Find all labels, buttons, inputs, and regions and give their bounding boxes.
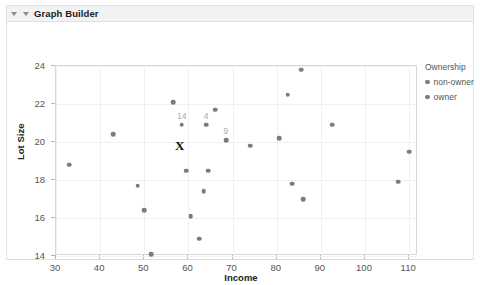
data-point-label: 14 [177, 111, 186, 121]
data-point[interactable] [188, 214, 193, 219]
gridline-horizontal [56, 104, 416, 105]
legend-item[interactable]: owner [425, 92, 480, 102]
x-annotation-marker[interactable]: X [175, 138, 184, 154]
y-tick-label: 20 [5, 136, 45, 147]
data-point[interactable] [135, 183, 140, 188]
data-point[interactable] [213, 107, 218, 112]
gridline-vertical [233, 66, 234, 254]
gridline-vertical [188, 66, 189, 254]
y-tick-label: 14 [5, 250, 45, 261]
data-point[interactable] [180, 123, 185, 128]
data-point[interactable] [290, 182, 295, 187]
x-tick-label: 30 [50, 262, 61, 273]
data-point[interactable] [171, 100, 176, 105]
scatter-plot-area[interactable]: 1449X [55, 65, 417, 255]
graph-builder-window: Graph Builder Lot Size Income 1416182022… [0, 0, 480, 285]
panel-title: Graph Builder [34, 8, 99, 19]
legend-title: Ownership [425, 62, 480, 72]
gridline-vertical [409, 66, 410, 254]
data-point[interactable] [206, 168, 211, 173]
panel-titlebar[interactable]: Graph Builder [6, 5, 474, 22]
y-tick-label: 22 [5, 98, 45, 109]
legend-item-label: non-owner [434, 77, 474, 87]
x-tick-label: 60 [182, 262, 193, 273]
data-point[interactable] [149, 252, 154, 257]
gridline-horizontal [56, 256, 416, 257]
x-axis-title: Income [7, 272, 475, 283]
data-point[interactable] [184, 168, 189, 173]
data-point[interactable] [111, 132, 116, 137]
x-tick-label: 90 [315, 262, 326, 273]
gridline-horizontal [56, 218, 416, 219]
legend-swatch-icon [425, 95, 430, 100]
data-point[interactable] [396, 180, 401, 185]
data-point-label: 4 [204, 111, 209, 121]
legend-item-label: owner [434, 92, 457, 102]
gridline-horizontal [56, 66, 416, 67]
gridline-horizontal [56, 142, 416, 143]
gridline-vertical [365, 66, 366, 254]
gridline-vertical [277, 66, 278, 254]
gridline-vertical [100, 66, 101, 254]
triangle-down-icon-secondary[interactable] [22, 9, 31, 18]
data-point[interactable] [67, 163, 72, 168]
legend-items: non-ownerowner [425, 77, 480, 102]
y-tick-label: 16 [5, 212, 45, 223]
data-point[interactable] [142, 208, 147, 213]
gridline-vertical [321, 66, 322, 254]
triangle-down-icon[interactable] [10, 9, 19, 18]
x-tick-label: 50 [138, 262, 149, 273]
legend: Ownership non-ownerowner [425, 62, 480, 107]
legend-swatch-icon [425, 80, 430, 85]
data-point[interactable] [301, 197, 306, 202]
x-tick-label: 70 [226, 262, 237, 273]
data-point[interactable] [285, 92, 290, 97]
y-tick-label: 24 [5, 60, 45, 71]
data-point[interactable] [204, 123, 209, 128]
x-tick-label: 40 [94, 262, 105, 273]
gridline-vertical [56, 66, 57, 254]
data-point[interactable] [407, 149, 412, 154]
data-point[interactable] [330, 123, 335, 128]
legend-item[interactable]: non-owner [425, 77, 480, 87]
gridline-horizontal [56, 180, 416, 181]
y-tick-label: 18 [5, 174, 45, 185]
data-point[interactable] [248, 144, 253, 149]
x-tick-label: 80 [270, 262, 281, 273]
x-tick-label: 110 [401, 262, 416, 273]
data-point[interactable] [277, 136, 282, 141]
data-point[interactable] [202, 189, 207, 194]
panel-body: Lot Size Income 141618202224 30405060708… [6, 22, 474, 260]
data-point[interactable] [299, 68, 304, 73]
gridline-vertical [144, 66, 145, 254]
data-point[interactable] [197, 237, 202, 242]
x-tick-label: 100 [356, 262, 372, 273]
data-point-label: 9 [224, 126, 229, 136]
data-point[interactable] [224, 138, 229, 143]
